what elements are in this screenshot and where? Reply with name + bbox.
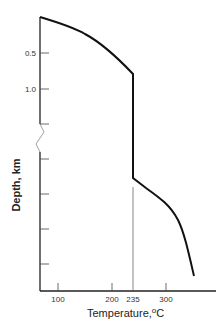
x-ticks	[58, 283, 166, 291]
x-tick-100: 100	[51, 295, 65, 304]
y-axis-label: Depth, km	[10, 158, 22, 211]
depth-temperature-chart: 0.5 1.0 100 200 235 300 Depth, km Temper…	[0, 0, 223, 330]
y-ticks	[40, 53, 49, 264]
y-tick-0.5: 0.5	[25, 49, 37, 58]
axis-break-icon	[36, 124, 44, 152]
temperature-profile-line	[40, 17, 194, 276]
y-tick-1.0: 1.0	[25, 85, 37, 94]
x-tick-235: 235	[126, 295, 140, 304]
x-axis-label: Temperature,oC	[87, 306, 164, 319]
x-tick-200: 200	[105, 295, 119, 304]
x-tick-300: 300	[159, 295, 173, 304]
